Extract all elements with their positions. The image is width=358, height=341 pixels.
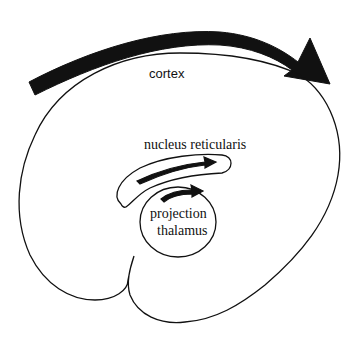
projection-thalamus-label-line2: thalamus bbox=[157, 223, 208, 238]
projection-thalamus-outline bbox=[140, 187, 216, 257]
nucleus-reticularis-label: nucleus reticularis bbox=[144, 137, 246, 152]
thalamocortical-diagram: cortex nucleus reticularis projection th… bbox=[0, 0, 358, 341]
cortex-label: cortex bbox=[149, 66, 185, 81]
projection-thalamus-label-line1: projection bbox=[150, 206, 207, 221]
